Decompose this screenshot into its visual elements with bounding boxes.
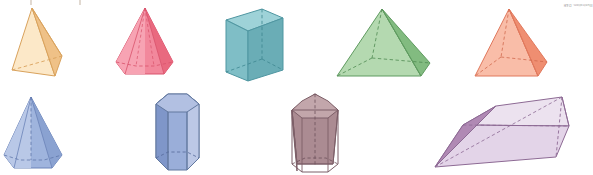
cuboid-front-left-face	[226, 20, 248, 81]
shape-pentagonal-prism	[292, 94, 338, 172]
page-crumb-right	[79, 0, 81, 5]
illustration-credit: Illustration: D&E	[564, 2, 593, 6]
shape-hexagonal-prism	[156, 94, 199, 170]
page-crumb-left	[30, 0, 32, 5]
shape-rectangular-prism	[226, 9, 283, 81]
